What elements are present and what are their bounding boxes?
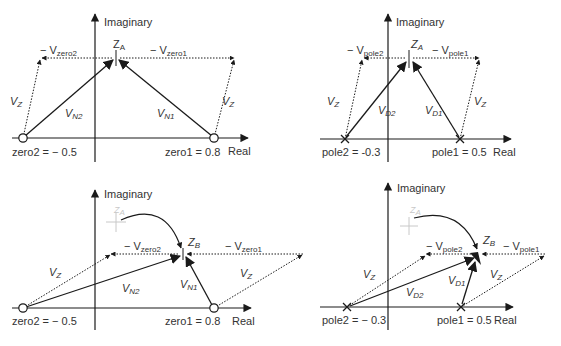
pole2-label: pole2 = -0.3 bbox=[322, 146, 380, 158]
zero2-marker bbox=[19, 134, 27, 142]
zero1-label: zero1 = 0.8 bbox=[165, 315, 220, 327]
movement-arc bbox=[414, 215, 477, 249]
vn1-label: VN1 bbox=[157, 107, 175, 121]
vz-label-left: VZ bbox=[10, 95, 23, 109]
real-axis-label: Real bbox=[232, 315, 255, 327]
zero1-marker bbox=[210, 304, 218, 312]
vd1-vector bbox=[413, 62, 459, 137]
vd1-label: VD1 bbox=[448, 274, 466, 288]
vn1-vector bbox=[186, 257, 212, 305]
zero2-label: zero2 = − 0.5 bbox=[12, 146, 77, 158]
zb-label: ZB bbox=[187, 236, 201, 250]
pole2-label: pole2 = − 0.3 bbox=[322, 314, 386, 326]
vz-vector-right bbox=[461, 256, 544, 307]
vn1-vector bbox=[119, 60, 212, 136]
vz-label-right: VZ bbox=[490, 268, 503, 282]
panel-top-left: Imaginary Real ZA − Vzero2 − Vzero1 VZ V… bbox=[10, 14, 251, 162]
vz-label-right: VZ bbox=[474, 95, 487, 109]
zero1-marker bbox=[210, 134, 218, 142]
real-axis-label: Real bbox=[228, 145, 251, 157]
vd2-label: VD2 bbox=[406, 286, 424, 300]
vn2-vector bbox=[25, 60, 113, 136]
vz-vector-right bbox=[214, 255, 302, 308]
zero2-marker bbox=[19, 304, 27, 312]
vz-vector-left bbox=[23, 60, 40, 138]
vz-label-right: VZ bbox=[222, 95, 235, 109]
panel-bottom-left: Imaginary Real ZA ZB − Vzero2 − Vzero1 V… bbox=[12, 188, 303, 330]
vz-label-left: VZ bbox=[49, 266, 62, 280]
neg-vzero1-label: − Vzero1 bbox=[150, 44, 187, 58]
panel-top-right: Imaginary Real ZA − Vpole2 − Vpole1 VZ V… bbox=[320, 14, 516, 162]
pole-zero-vector-diagram: Imaginary Real ZA − Vzero2 − Vzero1 VZ V… bbox=[0, 0, 561, 346]
real-axis-label: Real bbox=[494, 314, 517, 326]
neg-vzero2-label: − Vzero2 bbox=[40, 44, 77, 58]
imaginary-axis-label: Imaginary bbox=[104, 188, 153, 200]
panel-bottom-right: Imaginary Real ZA ZB − Vpole2 − Vpole1 V… bbox=[320, 182, 545, 330]
za-label: ZA bbox=[410, 38, 423, 52]
zero2-label: zero2 = − 0.5 bbox=[12, 315, 77, 327]
za-ghost-label: ZA bbox=[113, 205, 125, 217]
neg-vzero2-label: − Vzero2 bbox=[124, 240, 161, 254]
vn2-label: VN2 bbox=[65, 107, 83, 121]
pole1-label: pole1 = 0.5 bbox=[437, 314, 492, 326]
real-axis-label: Real bbox=[493, 146, 516, 158]
imaginary-axis-label: Imaginary bbox=[396, 16, 445, 28]
neg-vpole1-label: − Vpole1 bbox=[503, 240, 540, 254]
imaginary-axis-label: Imaginary bbox=[104, 16, 153, 28]
za-ghost-marker bbox=[400, 217, 418, 235]
za-label: ZA bbox=[113, 38, 126, 52]
vz-label-right: VZ bbox=[240, 267, 253, 281]
neg-vpole2-label: − Vpole2 bbox=[426, 240, 463, 254]
neg-vzero1-label: − Vzero1 bbox=[225, 240, 262, 254]
neg-vpole1-label: − Vpole1 bbox=[432, 44, 469, 58]
vn1-label: VN1 bbox=[180, 278, 198, 292]
vn2-label: VN2 bbox=[122, 282, 140, 296]
vn2-vector bbox=[26, 256, 180, 307]
vz-label-left: VZ bbox=[363, 268, 376, 282]
za-ghost-label: ZA bbox=[409, 205, 421, 217]
vd2-label: VD2 bbox=[378, 104, 396, 118]
vd2-vector bbox=[346, 62, 406, 137]
zero1-label: zero1 = 0.8 bbox=[165, 146, 220, 158]
imaginary-axis-label: Imaginary bbox=[397, 182, 446, 194]
vz-label-left: VZ bbox=[327, 95, 340, 109]
neg-vpole2-label: − Vpole2 bbox=[347, 44, 384, 58]
pole1-label: pole1 = 0.5 bbox=[432, 146, 487, 158]
vz-vector-left bbox=[23, 255, 110, 308]
zb-label: ZB bbox=[482, 234, 496, 248]
